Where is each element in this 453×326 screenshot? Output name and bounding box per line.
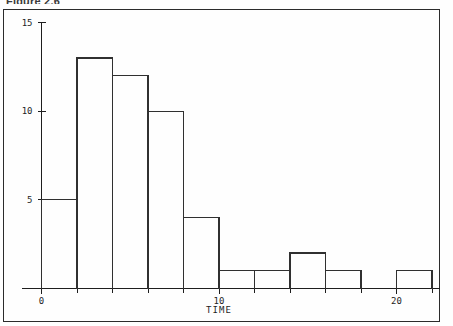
x-tick-label-0: 0 bbox=[39, 296, 44, 306]
y-tick-label-5: 5 bbox=[27, 195, 32, 205]
figure-page: Figure 2.6 51015 01020 TIME bbox=[0, 0, 453, 326]
histogram-bar-2-4 bbox=[77, 58, 113, 288]
x-tick-label-10: 10 bbox=[214, 296, 225, 306]
x-tick-labels: 01020 bbox=[39, 296, 402, 306]
histogram-bar-20-22 bbox=[397, 271, 433, 289]
histogram-bar-12-14 bbox=[255, 271, 291, 289]
histogram-bar-6-8 bbox=[148, 111, 184, 288]
axis-group bbox=[22, 22, 440, 289]
histogram-bars bbox=[42, 58, 433, 288]
x-axis-title: TIME bbox=[206, 305, 232, 315]
histogram-bar-8-10 bbox=[184, 218, 220, 289]
histogram-bar-4-6 bbox=[113, 76, 149, 289]
histogram-bar-10-12 bbox=[219, 271, 255, 289]
x-tick-label-20: 20 bbox=[391, 296, 402, 306]
y-tick-label-15: 15 bbox=[22, 18, 33, 28]
histogram-bar-0-2 bbox=[42, 200, 78, 289]
y-tick-label-10: 10 bbox=[22, 106, 33, 116]
histogram-svg: 51015 01020 TIME bbox=[0, 0, 453, 326]
y-tick-labels: 51015 bbox=[22, 18, 33, 205]
histogram-figure: 51015 01020 TIME bbox=[0, 0, 453, 326]
histogram-bar-14-16 bbox=[290, 253, 326, 288]
histogram-bar-16-18 bbox=[326, 271, 362, 289]
